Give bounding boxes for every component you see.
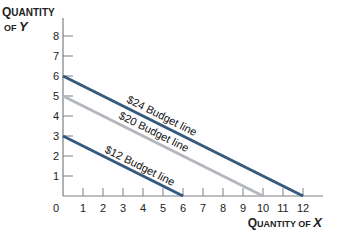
x-tick-label: 3 [120, 202, 126, 214]
y-tick-label: 5 [53, 90, 59, 102]
label-12-budget-line: $12 Budget line [103, 143, 177, 188]
x-tick-label: 2 [100, 202, 106, 214]
x-tick-label: 7 [200, 202, 206, 214]
x-tick-label: 6 [180, 202, 186, 214]
x-tick-label: 9 [240, 202, 246, 214]
x-tick-label: 8 [220, 202, 226, 214]
budget-line-24 [63, 76, 303, 196]
x-tick-label: 1 [80, 202, 86, 214]
origin-label: 0 [53, 202, 59, 214]
y-axis-title: QUANTITY [2, 5, 55, 19]
y-tick-label: 7 [53, 50, 59, 62]
x-tick-label: 11 [277, 202, 288, 214]
y-tick-label: 2 [53, 150, 59, 162]
y-tick-label: 3 [53, 130, 59, 142]
x-ticks: 123456789101112 [80, 188, 309, 214]
y-tick-label: 8 [53, 30, 59, 42]
y-title-rest: UANTITY [11, 7, 55, 18]
y-tick-label: 1 [53, 170, 59, 182]
x-tick-label: 10 [257, 202, 269, 214]
budget-line-12 [63, 136, 183, 196]
y-tick-label: 4 [53, 110, 59, 122]
x-tick-label: 5 [160, 202, 166, 214]
x-tick-label: 4 [140, 202, 146, 214]
x-axis-title: QUANTITY OF X [248, 215, 324, 230]
budget-line-chart: 12345678 123456789101112 $24 Budget line… [0, 0, 341, 233]
y-axis-title-line2: OF Y [4, 19, 29, 34]
y-tick-label: 6 [53, 70, 59, 82]
x-tick-label: 12 [297, 202, 309, 214]
